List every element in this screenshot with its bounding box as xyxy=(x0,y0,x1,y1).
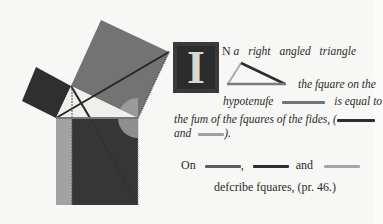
long-leg-segment-2 xyxy=(253,165,289,168)
book-page: I N a right angled triangle the fquare o… xyxy=(0,0,383,224)
line3-text-a: hypotenufe xyxy=(223,95,273,107)
line5-text-b: ). xyxy=(224,127,231,139)
text-line-3: hypotenufe is equal to xyxy=(223,95,382,107)
line6-text-a: On xyxy=(181,158,196,172)
hypotenuse-segment xyxy=(282,101,325,104)
hypotenuse-segment-2 xyxy=(205,165,241,168)
line3-text-b: is equal to xyxy=(334,95,382,107)
short-leg-segment-2 xyxy=(324,165,360,168)
line6-text-c: and xyxy=(296,158,313,172)
triangle-long-side xyxy=(241,63,285,84)
text-line-1: N a right angled triangle xyxy=(222,44,356,59)
line6-comma: , xyxy=(241,158,244,172)
text-line-6: On , and xyxy=(181,158,360,173)
triangle-short-side xyxy=(228,63,241,84)
text-line-4: the fum of the fquares of the fides, ( xyxy=(174,113,375,125)
line1-text: a right angled triangle xyxy=(234,45,356,57)
text-line-2: the fquare on the xyxy=(298,78,376,90)
line1-cap: N xyxy=(222,44,231,58)
long-leg-segment xyxy=(337,119,375,122)
drop-cap-letter: I xyxy=(173,42,219,93)
bottom-square-light-strip xyxy=(56,118,72,205)
short-leg-segment xyxy=(198,133,224,136)
line5-text-a: and xyxy=(174,127,191,139)
text-line-7: defcribe fquares, (pr. 46.) xyxy=(214,180,336,195)
text-line-5: and ). xyxy=(174,127,231,139)
drop-cap: I xyxy=(173,42,219,93)
line4-text: the fum of the fquares of the fides, ( xyxy=(174,113,337,125)
